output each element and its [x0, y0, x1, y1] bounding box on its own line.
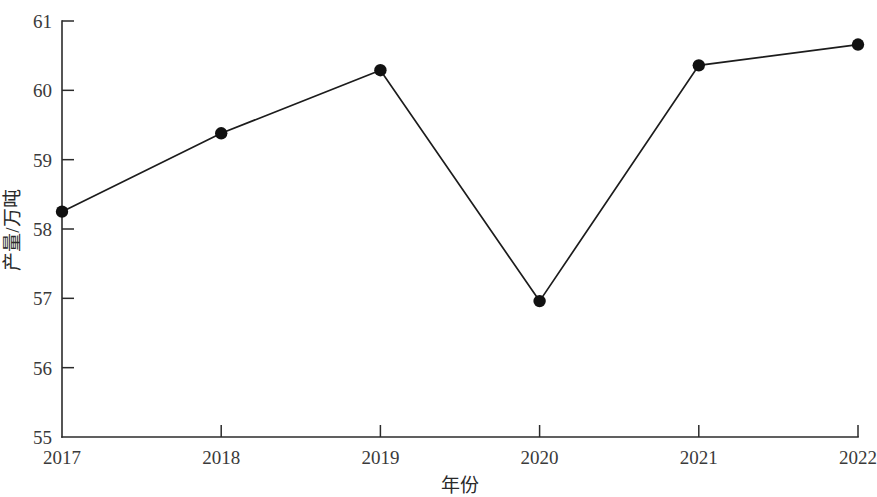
data-point-markers: [56, 38, 864, 307]
x-tick-label-2017: 2017: [43, 447, 81, 468]
x-tick-label-2020: 2020: [521, 447, 559, 468]
data-point-2021: [693, 59, 705, 71]
y-tick-label-57: 57: [33, 288, 52, 309]
y-tick-label-61: 61: [33, 11, 52, 32]
x-tick-label-2021: 2021: [680, 447, 718, 468]
x-axis-title: 年份: [441, 475, 479, 496]
data-point-2018: [215, 127, 227, 139]
y-tick-label-58: 58: [33, 219, 52, 240]
line-chart: 产量/万吨 年份 61605958575655 2017201820192020…: [0, 0, 877, 497]
x-tick-label-2018: 2018: [202, 447, 240, 468]
y-tick-label-60: 60: [33, 80, 52, 101]
x-tick-label-2019: 2019: [361, 447, 399, 468]
data-line-series-production: [62, 45, 858, 302]
y-axis-tick-labels: 61605958575655: [33, 11, 52, 448]
data-point-2017: [56, 205, 68, 217]
y-tick-label-56: 56: [33, 358, 52, 379]
data-point-2019: [374, 64, 386, 76]
x-axis-ticks: [221, 425, 699, 437]
y-tick-label-55: 55: [33, 427, 52, 448]
y-axis-ticks: [62, 90, 74, 367]
data-point-2022: [852, 38, 864, 50]
chart-canvas: 产量/万吨 年份 61605958575655 2017201820192020…: [0, 0, 877, 497]
x-axis-tick-labels: 201720182019202020212022: [43, 447, 877, 468]
data-point-2020: [533, 295, 545, 307]
y-tick-label-59: 59: [33, 150, 52, 171]
x-tick-label-2022: 2022: [839, 447, 877, 468]
y-axis-title: 产量/万吨: [2, 189, 23, 270]
